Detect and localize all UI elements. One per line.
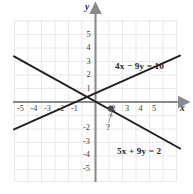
x-tick-4: 4: [139, 105, 143, 113]
intersection-question-mark: ?: [106, 123, 110, 132]
x-tick--2: -2: [58, 105, 65, 113]
y-tick-4: 4: [87, 44, 91, 52]
y-tick--2: -2: [83, 124, 90, 132]
y-tick-5: 5: [87, 31, 91, 39]
y-tick-1: 1: [87, 85, 91, 93]
x-tick-5: 5: [152, 105, 156, 113]
y-axis-label: y: [85, 3, 89, 13]
y-tick--5: -5: [83, 165, 90, 173]
x-axis-label: x: [180, 104, 185, 114]
x-tick--5: -5: [17, 105, 24, 113]
y-tick--3: -3: [83, 138, 90, 146]
x-tick--3: -3: [44, 105, 51, 113]
x-tick-2: 2: [112, 105, 116, 113]
axis-lines: [13, 12, 180, 182]
y-tick--4: -4: [83, 151, 90, 159]
y-tick-2: 2: [87, 71, 91, 79]
x-tick--1: -1: [71, 105, 78, 113]
equation-label-1: 4x − 9y = 10: [115, 62, 164, 71]
coordinate-plane-svg: [0, 0, 193, 194]
y-tick-3: 3: [87, 58, 91, 66]
x-tick-3: 3: [125, 105, 129, 113]
equation-label-2: 5x + 9y = 2: [117, 147, 161, 156]
graph-figure: y x -5 -4 -3 -2 -1 2 3 4 5 5 4 3 2 1 -2 …: [0, 0, 193, 194]
x-tick--4: -4: [31, 105, 38, 113]
